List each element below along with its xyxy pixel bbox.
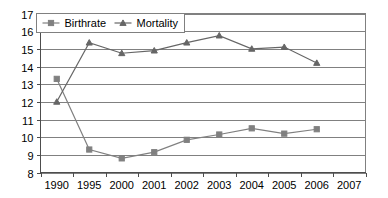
series-line	[57, 79, 317, 158]
x-axis-tick-label: 2000	[110, 179, 134, 191]
data-series-group	[54, 32, 320, 160]
chart-legend: BirthrateMortality	[37, 14, 185, 33]
square-marker	[48, 20, 53, 25]
data-point-marker	[314, 60, 320, 66]
data-point-marker	[152, 150, 157, 155]
data-point-marker	[217, 132, 222, 137]
x-axis-tick-label: 1995	[77, 179, 101, 191]
y-axis-tick-label: 12	[21, 97, 33, 109]
data-point-marker	[87, 147, 92, 152]
x-axis-tick-label: 1990	[45, 179, 69, 191]
x-axis-tick-label: 2007	[337, 179, 361, 191]
y-axis-tick-label: 8	[27, 168, 33, 180]
data-point-marker	[86, 40, 92, 46]
y-axis-tick-label: 10	[21, 132, 33, 144]
y-axis-tick-label: 13	[21, 79, 33, 91]
x-axis: 1990199520002001200220032004200520062007	[41, 173, 367, 191]
legend-label: Mortality	[137, 17, 179, 29]
x-axis-tick-label: 2006	[305, 179, 329, 191]
data-point-marker	[54, 99, 60, 105]
series-birthrate	[54, 76, 319, 161]
data-point-marker	[184, 137, 189, 142]
y-axis-tick-label: 14	[21, 62, 33, 74]
x-axis-tick-label: 2003	[207, 179, 231, 191]
data-point-marker	[249, 126, 254, 131]
x-axis-tick-label: 2004	[240, 179, 264, 191]
y-axis-tick-label: 9	[27, 150, 33, 162]
x-axis-tick-label: 2005	[272, 179, 296, 191]
chart-container: 891011121314151617 199019952000200120022…	[0, 0, 388, 198]
data-point-marker	[216, 32, 222, 38]
x-axis-tick-label: 2001	[142, 179, 166, 191]
data-point-marker	[314, 127, 319, 132]
series-mortality	[54, 32, 320, 104]
y-axis-tick-label: 16	[21, 26, 33, 38]
data-point-marker	[119, 156, 124, 161]
y-axis: 891011121314151617	[21, 9, 40, 180]
line-chart: 891011121314151617 199019952000200120022…	[0, 0, 388, 198]
legend-label: Birthrate	[65, 17, 107, 29]
y-axis-tick-label: 11	[22, 115, 33, 127]
data-point-marker	[54, 76, 59, 81]
x-axis-tick-label: 2002	[175, 179, 199, 191]
y-axis-tick-label: 15	[21, 44, 33, 56]
y-axis-tick-label: 17	[21, 9, 33, 21]
data-point-marker	[282, 131, 287, 136]
